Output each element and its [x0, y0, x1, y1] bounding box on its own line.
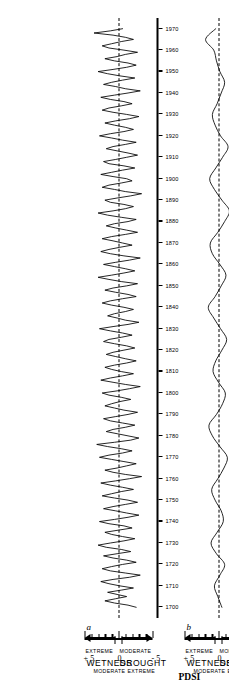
panel-a-letter: a	[86, 622, 91, 632]
legend-wetness-scale-b: EXTREMEWETNESSMODERATE	[184, 630, 218, 678]
panel-a-trace	[84, 18, 152, 618]
ruler-tick	[145, 634, 146, 638]
wetness-extreme-label: EXTREME	[185, 648, 213, 654]
x-axis-tick-label: 1860	[165, 261, 178, 267]
panel-b-trace	[184, 18, 229, 618]
x-axis-tick-label: 1740	[165, 518, 178, 524]
legend-drought-scale-b: MODERATEDROUGHTEXTREME	[218, 630, 229, 678]
x-axis-tick-label: 1910	[165, 154, 178, 160]
x-axis-tick-label: 1710	[165, 583, 178, 589]
wetness-bracket-line	[187, 637, 215, 638]
rotated-figure-container: EXTREMEWETNESSMODERATE MODERATEDROUGHTEX…	[0, 0, 229, 694]
ruler-tick-plus5	[84, 631, 85, 638]
x-axis-tick-label: 1770	[165, 454, 178, 460]
x-axis-tick-label: 1830	[165, 326, 178, 332]
ruler-tick-minus5	[152, 631, 153, 638]
ruler-bar	[84, 638, 152, 640]
drought-center-label: DROUGHT	[219, 658, 229, 668]
y-tick-label-minus5-a: - 5	[151, 654, 160, 663]
panel-a: a	[84, 18, 152, 618]
x-axis-tick-label: 1750	[165, 497, 178, 503]
x-axis-tick-label: 1930	[165, 111, 178, 117]
pdsi-figure: EXTREMEWETNESSMODERATE MODERATEDROUGHTEX…	[0, 0, 229, 694]
drought-moderate-label: MODERATE	[219, 648, 229, 654]
x-axis-tick-label: 1900	[165, 176, 178, 182]
ruler-tick	[132, 634, 133, 638]
ruler-tick	[138, 634, 139, 638]
x-axis-tick-label: 1880	[165, 218, 178, 224]
wetness-extreme-arrow-icon	[184, 634, 190, 642]
wetness-bracket-cap	[214, 636, 215, 644]
x-axis-tick-label: 1800	[165, 390, 178, 396]
drought-moderate-label: MODERATE	[119, 648, 151, 654]
y-tick-label-zero-a: 0	[117, 654, 121, 663]
panel-b: b	[184, 18, 229, 618]
x-axis-tick-label: 1890	[165, 197, 178, 203]
ruler-tick	[104, 634, 105, 638]
y-scale-ruler-panel-a	[84, 638, 152, 640]
x-axis-tick-label: 1720	[165, 561, 178, 567]
drought-extreme-label: EXTREME	[127, 668, 155, 674]
y-tick-label-plus5-a: + 5	[83, 654, 94, 663]
x-axis-tick-label: 1960	[165, 47, 178, 53]
x-axis-tick-label: 1760	[165, 476, 178, 482]
drought-extreme-label: EXTREME	[227, 668, 229, 674]
x-axis-tick-label: 1780	[165, 433, 178, 439]
x-axis-tick-label: 1790	[165, 411, 178, 417]
x-axis-tick-label: 1850	[165, 283, 178, 289]
x-axis-tick-label: 1810	[165, 368, 178, 374]
x-axis-tick-label: 1700	[165, 604, 178, 610]
panel-a-x-tick-labels: 1700171017201730174017501760177017801790…	[158, 18, 182, 618]
ruler-tick	[111, 634, 112, 638]
x-axis-tick-label: 1950	[165, 68, 178, 74]
x-axis-tick-label: 1870	[165, 240, 178, 246]
drought-bracket-cap	[221, 636, 222, 644]
panel-b-trace	[0, 617, 1, 618]
x-axis-tick-label: 1920	[165, 133, 178, 139]
x-axis-tick-label: 1840	[165, 304, 178, 310]
x-axis-tick-label: 1820	[165, 347, 178, 353]
ruler-tick	[125, 634, 126, 638]
ruler-tick	[98, 634, 99, 638]
x-axis-tick-label: 1970	[165, 26, 178, 32]
ruler-tick	[91, 634, 92, 638]
ruler-tick-zero	[118, 631, 119, 638]
x-axis-tick-label: 1940	[165, 90, 178, 96]
x-axis-tick-label: 1730	[165, 540, 178, 546]
